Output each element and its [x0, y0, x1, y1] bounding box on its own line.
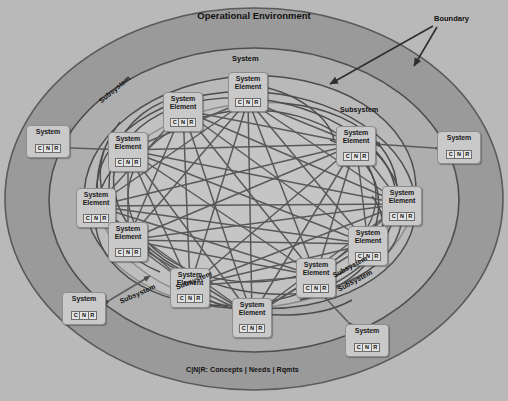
cnr-r: R — [321, 285, 328, 292]
legend-text: C|N|R: Concepts | Needs | Rqmts — [186, 366, 299, 373]
cnr-badge: CNR — [115, 248, 141, 257]
element-bottom-right[interactable]: SystemElementCNR — [296, 258, 336, 298]
cnr-r: R — [407, 213, 414, 220]
element-node-title-line1: System — [386, 189, 418, 197]
cnr-n: N — [179, 119, 187, 126]
cnr-r: R — [253, 99, 260, 106]
cnr-badge: CNR — [177, 294, 203, 303]
cnr-n: N — [455, 151, 463, 158]
element-node-title-line2: Element — [386, 197, 418, 205]
diagram-canvas: Operational Environment Boundary System … — [0, 0, 508, 401]
cnr-n: N — [363, 344, 371, 351]
cnr-c: C — [116, 249, 124, 256]
cnr-r: R — [101, 215, 108, 222]
element-node-title-line1: System — [236, 301, 268, 309]
element-node-title-line1: System — [352, 229, 384, 237]
element-node-title-line2: Element — [236, 309, 268, 317]
cnr-c: C — [447, 151, 455, 158]
element-bottom-mid[interactable]: SystemElementCNR — [232, 298, 272, 338]
cnr-c: C — [171, 119, 179, 126]
cnr-n: N — [248, 325, 256, 332]
element-lower-left[interactable]: SystemElementCNR — [108, 222, 148, 262]
element-node-title-line1: System — [340, 129, 372, 137]
cnr-badge: CNR — [35, 144, 61, 153]
element-node-title-line1: System — [167, 95, 199, 103]
cnr-badge: CNR — [354, 343, 380, 352]
cnr-r: R — [195, 295, 202, 302]
system-bottom-right[interactable]: SystemCNR — [345, 324, 389, 357]
cnr-c: C — [304, 285, 312, 292]
page-title-line1: Operational Environment — [197, 10, 311, 21]
system-left[interactable]: SystemCNR — [26, 125, 70, 158]
cnr-c: C — [236, 99, 244, 106]
element-node-title-line2: Element — [232, 83, 264, 91]
cnr-badge: CNR — [71, 311, 97, 320]
element-mid-right[interactable]: SystemElementCNR — [382, 186, 422, 226]
system-node-title: System — [441, 134, 477, 142]
element-upper-left[interactable]: SystemElementCNR — [163, 92, 203, 132]
subsystem-label-right: Subsystem — [340, 106, 378, 113]
cnr-badge: CNR — [83, 214, 109, 223]
cnr-badge: CNR — [343, 152, 369, 161]
cnr-badge: CNR — [115, 158, 141, 167]
element-node-title-line2: Element — [300, 269, 332, 277]
system-right[interactable]: SystemCNR — [437, 131, 481, 164]
cnr-r: R — [464, 151, 471, 158]
element-node-title-line2: Element — [112, 143, 144, 151]
cnr-c: C — [72, 312, 80, 319]
cnr-r: R — [53, 145, 60, 152]
cnr-badge: CNR — [446, 150, 472, 159]
element-node-title-line2: Element — [167, 103, 199, 111]
cnr-badge: CNR — [235, 98, 261, 107]
element-node-title-line1: System — [80, 191, 112, 199]
cnr-n: N — [398, 213, 406, 220]
boundary-label: Boundary — [434, 14, 469, 23]
cnr-r: R — [372, 344, 379, 351]
system-node-title: System — [30, 128, 66, 136]
cnr-r: R — [133, 159, 140, 166]
cnr-n: N — [352, 153, 360, 160]
cnr-n: N — [92, 215, 100, 222]
element-upper-right[interactable]: SystemElementCNR — [336, 126, 376, 166]
cnr-c: C — [240, 325, 248, 332]
element-node-title-line2: Element — [352, 237, 384, 245]
system-band-label: System — [232, 54, 259, 63]
element-node-title-line1: System — [112, 135, 144, 143]
element-node-title-line2: Element — [112, 233, 144, 241]
system-bottom-left[interactable]: SystemCNR — [62, 292, 106, 325]
cnr-r: R — [89, 312, 96, 319]
cnr-c: C — [116, 159, 124, 166]
cnr-badge: CNR — [389, 212, 415, 221]
cnr-r: R — [188, 119, 195, 126]
cnr-n: N — [312, 285, 320, 292]
cnr-c: C — [178, 295, 186, 302]
cnr-c: C — [355, 344, 363, 351]
cnr-n: N — [44, 145, 52, 152]
system-node-title: System — [66, 295, 102, 303]
cnr-badge: CNR — [239, 324, 265, 333]
cnr-c: C — [390, 213, 398, 220]
element-node-title-line2: Element — [80, 199, 112, 207]
element-node-title-line1: System — [232, 75, 264, 83]
cnr-n: N — [80, 312, 88, 319]
element-top[interactable]: SystemElementCNR — [228, 72, 268, 112]
cnr-n: N — [124, 159, 132, 166]
system-node-title: System — [349, 327, 385, 335]
cnr-c: C — [36, 145, 44, 152]
cnr-r: R — [373, 253, 380, 260]
cnr-r: R — [133, 249, 140, 256]
element-node-title-line1: System — [112, 225, 144, 233]
cnr-r: R — [257, 325, 264, 332]
cnr-n: N — [124, 249, 132, 256]
element-node-title-line2: Element — [340, 137, 372, 145]
element-node-title-line1: System — [300, 261, 332, 269]
cnr-n: N — [186, 295, 194, 302]
element-left[interactable]: SystemElementCNR — [108, 132, 148, 172]
cnr-n: N — [244, 99, 252, 106]
cnr-c: C — [84, 215, 92, 222]
cnr-badge: CNR — [170, 118, 196, 127]
page-title: Operational Environment — [192, 10, 316, 21]
cnr-badge: CNR — [303, 284, 329, 293]
cnr-r: R — [361, 153, 368, 160]
cnr-c: C — [344, 153, 352, 160]
